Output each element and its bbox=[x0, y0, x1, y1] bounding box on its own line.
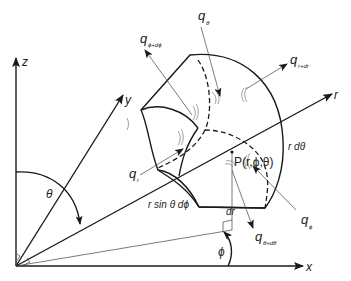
svg-text:r+dr: r+dr bbox=[298, 63, 310, 69]
svg-text:θ: θ bbox=[206, 20, 210, 26]
q-theta-dtheta-arrow bbox=[232, 170, 253, 228]
q-phi-label: q ϕ bbox=[301, 212, 313, 230]
q-phi-arrow bbox=[253, 166, 296, 210]
q-r-dr-arrow bbox=[246, 64, 287, 89]
svg-text:q: q bbox=[129, 166, 137, 181]
q-theta-label: q θ bbox=[198, 8, 210, 26]
r-dtheta-label: r dθ bbox=[288, 141, 306, 152]
phi-arc bbox=[224, 232, 231, 266]
x-axis-label: x bbox=[305, 260, 313, 274]
r-sin-theta-dphi-label: r sin θ dϕ bbox=[148, 199, 189, 210]
point-p bbox=[230, 150, 233, 153]
svg-text:θ+dθ: θ+dθ bbox=[263, 240, 277, 246]
z-axis-label: z bbox=[21, 55, 28, 69]
y-axis bbox=[16, 95, 123, 266]
hidden-edge-2 bbox=[205, 130, 268, 208]
svg-text:ϕ: ϕ bbox=[309, 224, 313, 230]
svg-text:ϕ+dϕ: ϕ+dϕ bbox=[148, 42, 162, 48]
q-phi-dphi-label: q ϕ+dϕ bbox=[140, 31, 162, 48]
flux-marks bbox=[127, 87, 250, 169]
svg-text:q: q bbox=[301, 212, 309, 227]
spherical-coordinates-diagram: z y x r θ ϕ P(r,ϕ,θ) r dθ r sin θ dϕ dr … bbox=[0, 0, 351, 281]
q-r-label: q r bbox=[129, 166, 140, 183]
hidden-edge-1 bbox=[198, 60, 210, 130]
phi-label: ϕ bbox=[218, 245, 225, 259]
r-axis-label: r bbox=[334, 88, 339, 102]
front-face-top bbox=[141, 107, 198, 128]
svg-text:q: q bbox=[198, 8, 206, 23]
point-p-label: P(r,ϕ,θ) bbox=[234, 155, 273, 169]
q-theta-arrow bbox=[201, 27, 220, 96]
y-axis-label: y bbox=[124, 93, 132, 107]
q-theta-dtheta-label: q θ+dθ bbox=[255, 229, 277, 246]
volume-element-outer bbox=[141, 54, 283, 208]
theta-label: θ bbox=[46, 187, 53, 201]
svg-text:r: r bbox=[137, 177, 140, 183]
svg-text:q: q bbox=[140, 31, 148, 46]
q-r-dr-label: q r+dr bbox=[290, 52, 310, 69]
dr-label: dr bbox=[226, 206, 236, 217]
svg-text:q: q bbox=[290, 52, 298, 67]
svg-text:q: q bbox=[255, 229, 263, 244]
